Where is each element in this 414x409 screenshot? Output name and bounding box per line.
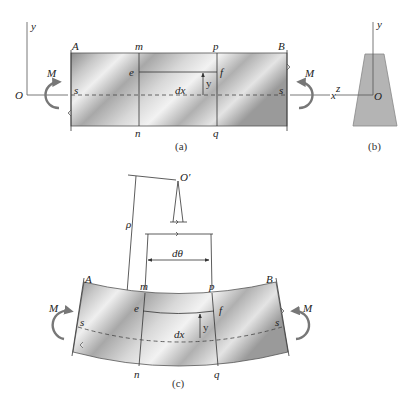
label-M-left-a: M	[46, 67, 57, 79]
label-n-c: n	[134, 368, 140, 380]
label-p-a: p	[212, 40, 219, 52]
label-M-left-c: M	[48, 302, 59, 314]
beam-curved	[73, 282, 288, 366]
label-A-c: A	[84, 273, 92, 285]
label-y-dim-c: y	[203, 321, 209, 333]
origin-label-b: O	[374, 90, 382, 102]
label-y-dim-a: y	[206, 77, 212, 89]
z-axis-label-b: z	[335, 82, 341, 94]
label-A-a: A	[71, 40, 79, 52]
label-e-c: e	[134, 302, 139, 314]
label-B-c: B	[266, 273, 273, 285]
label-M-right-a: M	[304, 67, 315, 79]
label-dx-c: dx	[174, 328, 185, 340]
label-s-left-c: s	[80, 316, 84, 328]
label-rho: ρ	[125, 218, 131, 230]
moment-arrow-right-c	[294, 311, 309, 339]
label-dx-a: dx	[175, 84, 186, 96]
label-m-a: m	[135, 40, 143, 52]
y-axis-label-a: y	[30, 20, 36, 32]
label-m-c: m	[140, 280, 148, 292]
caption-a: (a)	[175, 140, 188, 153]
panel-c: O′ ρ dθ A m p B e f s	[48, 171, 313, 390]
break-mark-right	[287, 64, 290, 70]
label-n-a: n	[135, 127, 141, 139]
label-s-right-c: s	[275, 316, 279, 328]
label-s-left-a: s	[74, 84, 78, 96]
label-p-c: p	[208, 280, 215, 292]
moment-arrow-left-c	[53, 311, 70, 339]
label-dtheta: dθ	[172, 247, 184, 259]
beam-bending-diagram: y O x A m p B e f s s dx y n q M	[0, 0, 414, 409]
panel-b: y z O (b)	[335, 18, 397, 153]
label-e-a: e	[129, 66, 134, 78]
caption-b: (b)	[368, 140, 381, 153]
label-q-a: q	[213, 127, 219, 139]
y-axis-label-b: y	[376, 18, 382, 30]
break-mark-left	[68, 110, 71, 116]
label-q-c: q	[214, 368, 220, 380]
label-B-a: B	[278, 40, 285, 52]
caption-c: (c)	[172, 377, 185, 390]
origin-label-a: O	[15, 89, 23, 101]
label-O-prime: O′	[180, 171, 191, 183]
label-M-right-c: M	[302, 302, 313, 314]
label-s-right-a: s	[279, 84, 283, 96]
panel-a: y O x A m p B e f s s dx y n q M	[15, 20, 336, 153]
